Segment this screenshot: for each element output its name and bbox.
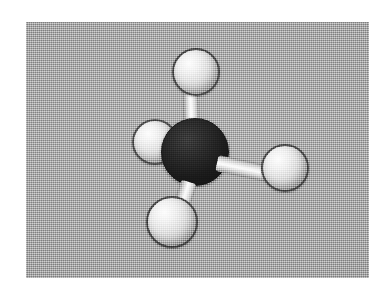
atom-hydrogen-right-label: H [262, 145, 263, 146]
atom-hydrogen-bottom-label: H [147, 197, 148, 198]
atom-carbon-center: C [161, 118, 229, 186]
atom-hydrogen-top: H [172, 48, 220, 96]
figure-root: H H C H H [0, 0, 389, 295]
atom-hydrogen-top-label: H [173, 49, 174, 50]
molecule-photograph: H H C H H [26, 22, 369, 278]
ball-and-stick-scene: H H C H H [26, 22, 369, 278]
atom-hydrogen-right: H [261, 144, 309, 192]
atom-hydrogen-left-label: H [133, 120, 134, 121]
atom-hydrogen-bottom: H [146, 196, 198, 248]
